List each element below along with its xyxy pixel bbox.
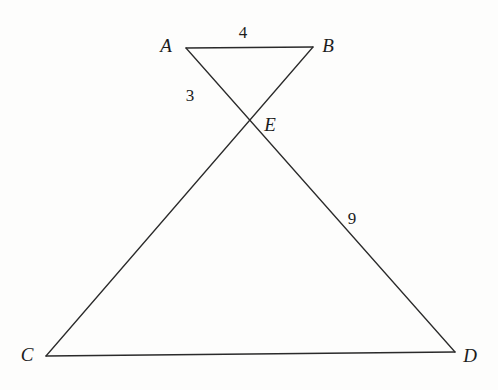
- vertex-label-c: C: [21, 345, 34, 364]
- diagram-canvas: [0, 0, 498, 390]
- geometry-figure: ABCDE439: [0, 0, 498, 390]
- length-label-ed: 9: [348, 210, 357, 227]
- vertex-label-b: B: [322, 36, 334, 55]
- segment-cd: [46, 352, 455, 356]
- segment-layer: [46, 47, 455, 356]
- vertex-label-a: A: [160, 36, 172, 55]
- vertex-label-d: D: [463, 346, 477, 365]
- vertex-label-e: E: [264, 115, 276, 134]
- length-label-ae: 3: [186, 87, 195, 104]
- segment-ab: [186, 47, 313, 48]
- segment-bc: [46, 47, 313, 356]
- length-label-ab: 4: [239, 24, 248, 41]
- segment-ad: [186, 48, 455, 352]
